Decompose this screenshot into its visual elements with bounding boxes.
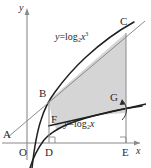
right-angle-marker-e [120, 137, 126, 143]
lower-curve-label: y=log2x [64, 119, 94, 130]
right-angle-marker-d [49, 137, 55, 143]
point-label-g: G [110, 92, 118, 103]
upper-curve-label-eq: =log [59, 31, 77, 42]
shaded-region [49, 33, 126, 131]
point-label-b: B [39, 88, 46, 99]
upper-curve-label: y=log2x3 [55, 31, 88, 43]
lower-curve-label-arg: x [90, 118, 94, 129]
point-label-c: C [120, 16, 127, 27]
point-label-a: A [3, 129, 11, 140]
point-label-f: F [51, 114, 57, 125]
y-axis-arrow-icon [25, 8, 30, 15]
origin-label: O [19, 147, 27, 158]
upper-curve-label-exp: 3 [85, 31, 88, 37]
figure-container: A B C D E F G O y x y=log2x3 y=log2x [0, 0, 151, 168]
y-axis-label: y [19, 3, 23, 13]
lower-curve-label-eq: =log [68, 118, 86, 129]
figure-graphic [0, 0, 151, 168]
point-label-d: D [45, 147, 53, 158]
point-label-e: E [122, 147, 129, 158]
x-axis-label: x [136, 146, 140, 156]
